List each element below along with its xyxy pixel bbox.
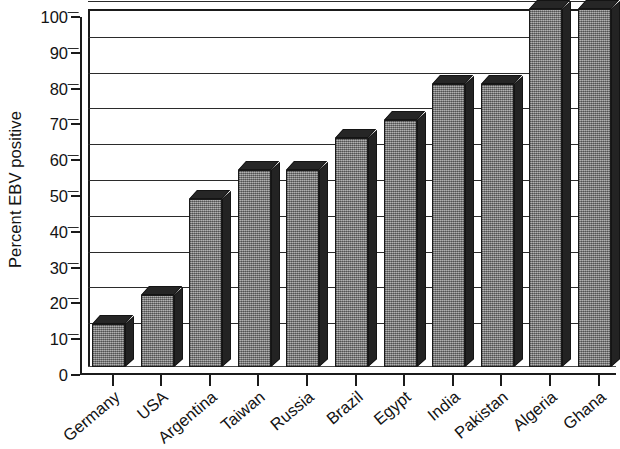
x-axis-tick-mark [452,375,454,386]
bar-front-face [432,84,465,367]
bar-side-face [611,1,620,367]
y-axis-tick-labels: 1009080706050403020100 [26,0,70,444]
y-axis-tick-mark [71,302,80,304]
x-axis-tick-mark [598,375,600,386]
bar-side-face [174,287,183,367]
bar-side-face [514,76,523,367]
bar-side-face [271,162,280,367]
bar [481,84,514,367]
bar [432,84,465,367]
y-axis-tick-label: 90 [50,45,68,62]
bar-front-face [286,170,319,367]
y-axis-tick-label: 30 [50,259,68,276]
x-axis-tick-mark [306,375,308,386]
plot-area [80,9,616,375]
y-axis-tick-label: 60 [50,152,68,169]
y-axis-tick-label: 100 [40,9,68,26]
bar [335,138,368,367]
y-axis-title: Percent EBV positive [2,0,28,378]
x-axis-tick-mark [403,375,405,386]
y-axis-tick-mark [71,52,80,54]
bar [189,199,222,367]
bar-front-face [335,138,368,367]
bar [578,9,611,367]
x-axis-tick-labels: GermanyUSAArgentinaTaiwanRussiaBrazilEgy… [0,388,616,444]
y-axis-tick-mark [71,267,80,269]
y-axis-title-text: Percent EBV positive [6,111,25,268]
bar [529,9,562,367]
y-axis-tick-label: 70 [50,116,68,133]
y-axis-tick-label: 50 [50,188,68,205]
bar-side-face [319,162,328,367]
bar-front-face [481,84,514,367]
x-axis-tick-marks [80,375,616,387]
bar [238,170,271,367]
bar [141,295,174,367]
y-axis-tick-mark [71,159,80,161]
bar [286,170,319,367]
y-axis-tick-mark [71,231,80,233]
bar-side-face [417,112,426,367]
x-axis-tick-mark [500,375,502,386]
bar-side-face [465,76,474,367]
y-axis-tick-mark [71,195,80,197]
y-axis-tick-label: 20 [50,295,68,312]
x-axis-tick-label-text: Brazil [323,388,365,427]
x-axis-tick-mark [257,375,259,386]
bars-layer [80,9,616,375]
x-axis-tick-mark [549,375,551,386]
x-axis-tick-label-text: USA [134,388,171,422]
bar-side-face [562,1,571,367]
bar-front-face [238,170,271,367]
y-axis-tick-label: 0 [59,367,68,384]
y-axis-tick-label: 80 [50,80,68,97]
bar-front-face [141,295,174,367]
y-axis-tick-mark [71,374,80,376]
bar-front-face [189,199,222,367]
bar-side-face [222,191,231,367]
bar [384,120,417,367]
bar-side-face [125,316,134,367]
x-axis-tick-label-text: Egypt [371,388,414,428]
x-axis-tick-label-text: Ghana [560,388,609,432]
y-axis-tick-label: 40 [50,224,68,241]
x-axis-tick-mark [355,375,357,386]
x-axis-tick-mark [209,375,211,386]
bar-front-face [578,9,611,367]
bar-side-face [368,130,377,367]
y-axis-tick-mark [71,123,80,125]
x-axis-tick-mark [160,375,162,386]
y-axis-tick-mark [71,338,80,340]
x-axis-tick-label-text: India [424,388,462,424]
y-axis-tick-mark [71,88,80,90]
y-axis-tick-mark [71,16,80,18]
bar [92,324,125,367]
x-axis-tick-mark [112,375,114,386]
y-axis-tick-label: 10 [50,331,68,348]
bar-front-face [384,120,417,367]
bar-front-face [92,324,125,367]
bar-front-face [529,9,562,367]
